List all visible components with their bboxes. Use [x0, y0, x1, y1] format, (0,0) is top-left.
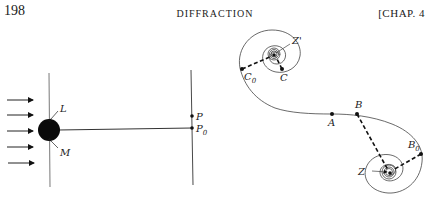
label-Z-prime: Z': [291, 35, 302, 46]
label-A: A: [327, 117, 335, 128]
label-P: P: [195, 111, 203, 122]
label-B: B: [354, 99, 362, 110]
label-B0: B0: [407, 139, 420, 153]
diffraction-figure: L M P P0 Z' C0 C: [0, 0, 430, 210]
label-Z: Z: [357, 166, 366, 177]
opaque-sphere: [38, 119, 60, 141]
label-C: C: [280, 72, 288, 83]
axis-line: [58, 128, 192, 130]
label-M: M: [59, 147, 71, 158]
incident-arrows: [7, 100, 34, 163]
cornu-points: Z' C0 C A B B0 Z: [240, 35, 423, 177]
label-L: L: [59, 103, 67, 114]
left-diagram: L M P P0: [7, 70, 208, 187]
label-P0: P0: [195, 123, 208, 137]
